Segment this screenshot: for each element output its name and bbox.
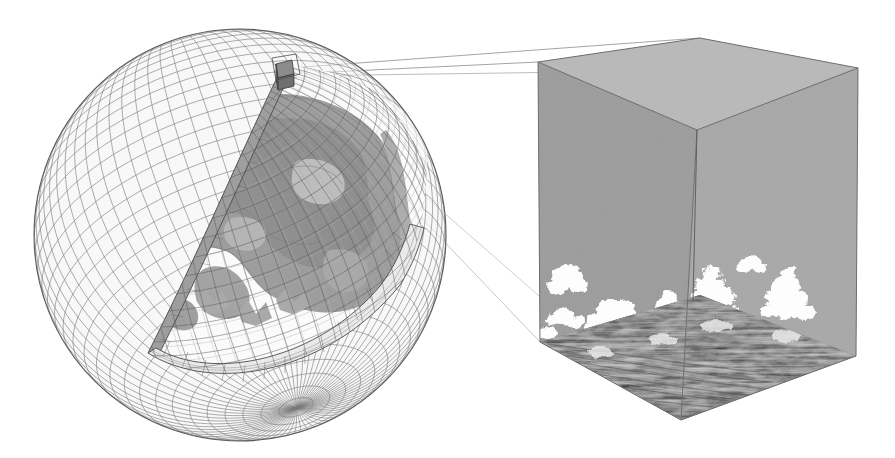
cloud: [794, 305, 816, 319]
cloud: [548, 279, 568, 295]
cloud: [538, 327, 556, 339]
cloud-base: [588, 347, 612, 357]
globe-label: Wireframe latitude-longitude mesh sphere…: [2, 5, 244, 11]
cloud: [661, 290, 677, 304]
cloud: [567, 316, 583, 328]
cloud: [736, 264, 750, 274]
figure-title: Multiscale climate model schematic: glob…: [2, 53, 251, 59]
cloud: [753, 263, 767, 273]
cloud: [545, 314, 559, 326]
cloud-base: [649, 334, 677, 346]
cloud-base: [700, 320, 732, 332]
multiscale-climate-figure: Wireframe latitude-longitude mesh sphere…: [0, 0, 895, 458]
cloud: [759, 306, 777, 318]
cloud: [780, 267, 796, 279]
clouds-label: shallow cumulus cloud field: [2, 37, 75, 43]
cloud: [569, 278, 587, 292]
surface-label: turbulent surface texture: [2, 45, 67, 51]
frustum-label: Four thin lines projecting from the embe…: [2, 21, 241, 27]
figure-canvas: Wireframe latitude-longitude mesh sphere…: [0, 0, 895, 458]
cloud: [703, 267, 721, 281]
cube-label: Magnified large-eddy-simulation domain r…: [2, 13, 261, 19]
cell-label: embedded grid cell (magnified at right): [2, 29, 104, 35]
globe-outer-shell: [34, 29, 446, 441]
